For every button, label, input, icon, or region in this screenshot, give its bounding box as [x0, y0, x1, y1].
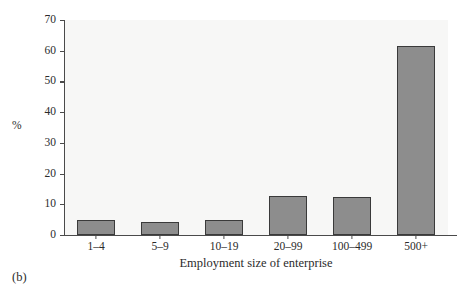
y-tick-mark — [60, 174, 64, 175]
y-tick-10: 10 — [0, 204, 64, 205]
y-tick-mark — [60, 20, 64, 21]
y-tick-mark — [60, 204, 64, 205]
y-tick-20: 20 — [0, 174, 64, 175]
x-tick-mark — [415, 235, 416, 239]
y-tick-label: 30 — [45, 134, 57, 151]
y-tick-50: 50 — [0, 81, 64, 82]
y-tick-mark — [60, 81, 64, 82]
y-axis-line — [64, 20, 65, 235]
y-tick-label: 10 — [45, 195, 57, 212]
y-tick-30: 30 — [0, 143, 64, 144]
x-tick-5–9: 5–9 — [128, 235, 192, 255]
x-tick-label: 1–4 — [87, 240, 104, 252]
y-tick-label: 70 — [45, 11, 57, 28]
x-tick-label: 5–9 — [151, 240, 168, 252]
y-tick-label: 0 — [50, 226, 56, 243]
bar-500+ — [397, 46, 435, 235]
y-tick-0: 0 — [0, 235, 64, 236]
figure-caption: (b) — [12, 270, 27, 285]
y-tick-40: 40 — [0, 112, 64, 113]
y-axis-title: % — [12, 119, 22, 131]
x-tick-mark — [351, 235, 352, 239]
bar-1–4 — [77, 220, 115, 235]
x-tick-1–4: 1–4 — [64, 235, 128, 255]
y-tick-label: 50 — [45, 72, 57, 89]
y-tick-mark — [60, 51, 64, 52]
x-tick-mark — [287, 235, 288, 239]
bar-100–499 — [333, 197, 371, 235]
x-tick-label: 500+ — [404, 240, 428, 252]
y-tick-label: 40 — [45, 103, 57, 120]
x-tick-10–19: 10–19 — [192, 235, 256, 255]
x-tick-label: 20–99 — [274, 240, 303, 252]
y-tick-mark — [60, 143, 64, 144]
x-tick-mark — [95, 235, 96, 239]
x-tick-500+: 500+ — [384, 235, 448, 255]
y-tick-label: 60 — [45, 42, 57, 59]
y-tick-mark — [60, 112, 64, 113]
figure-b: 010203040506070 1–45–910–1920–99100–4995… — [0, 0, 468, 296]
y-tick-label: 20 — [45, 165, 57, 182]
plot-area — [64, 20, 448, 235]
x-tick-100–499: 100–499 — [320, 235, 384, 255]
bar-5–9 — [141, 222, 179, 235]
x-tick-20–99: 20–99 — [256, 235, 320, 255]
bar-20–99 — [269, 196, 307, 235]
x-tick-mark — [159, 235, 160, 239]
y-tick-60: 60 — [0, 51, 64, 52]
bar-10–19 — [205, 220, 243, 235]
x-tick-label: 10–19 — [210, 240, 239, 252]
y-tick-70: 70 — [0, 20, 64, 21]
x-tick-label: 100–499 — [332, 240, 372, 252]
x-axis-title: Employment size of enterprise — [64, 256, 448, 271]
x-tick-mark — [223, 235, 224, 239]
